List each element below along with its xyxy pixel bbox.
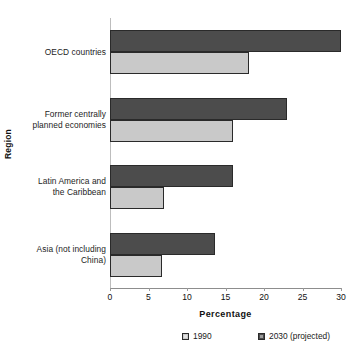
category-label-line: Latin America and <box>12 176 106 187</box>
legend-entry-base[interactable]: 1990 <box>182 331 212 341</box>
x-tick-label: 25 <box>288 292 318 302</box>
category-axis-labels: OECD countriesFormer centrallyplanned ec… <box>12 18 106 288</box>
legend-swatch-icon <box>258 333 265 340</box>
chart-legend: 19902030 (projected) <box>110 331 341 345</box>
category-label-line: Asia (not including <box>12 244 106 255</box>
bar-base <box>110 255 162 277</box>
legend-label: 1990 <box>193 331 212 341</box>
tick-mark <box>341 288 342 291</box>
bar-projected <box>110 165 233 187</box>
tick-mark <box>110 288 111 291</box>
plot-area <box>110 18 341 288</box>
category-label: Former centrallyplanned economies <box>12 109 106 131</box>
legend-swatch-icon <box>182 333 189 340</box>
category-label-line: planned economies <box>12 120 106 131</box>
x-tick-label: 20 <box>249 292 279 302</box>
category-label-line: China) <box>12 255 106 266</box>
x-axis-tick-labels: 051015202530 <box>110 292 341 306</box>
bar-base <box>110 187 164 209</box>
bar-projected <box>110 233 215 255</box>
tick-mark <box>226 288 227 291</box>
legend-label: 2030 (projected) <box>269 331 330 341</box>
category-label: OECD countries <box>12 47 106 58</box>
category-label-line: OECD countries <box>12 47 106 58</box>
x-tick-label: 0 <box>95 292 125 302</box>
x-tick-label: 15 <box>211 292 241 302</box>
x-axis-title: Percentage <box>110 309 341 319</box>
x-tick-label: 10 <box>172 292 202 302</box>
bar-base <box>110 52 249 74</box>
tick-mark <box>149 288 150 291</box>
tick-mark <box>303 288 304 291</box>
x-tick-label: 5 <box>134 292 164 302</box>
bar-base <box>110 120 233 142</box>
tick-mark <box>264 288 265 291</box>
tick-mark <box>187 288 188 291</box>
category-label-line: Former centrally <box>12 109 106 120</box>
legend-entry-projected[interactable]: 2030 (projected) <box>258 331 330 341</box>
category-label: Latin America andthe Caribbean <box>12 176 106 198</box>
category-label-line: the Caribbean <box>12 187 106 198</box>
category-label: Asia (not includingChina) <box>12 244 106 266</box>
bar-projected <box>110 98 287 120</box>
x-tick-label: 30 <box>326 292 356 302</box>
bar-chart: Region OECD countriesFormer centrallypla… <box>0 0 360 355</box>
bar-projected <box>110 30 341 52</box>
